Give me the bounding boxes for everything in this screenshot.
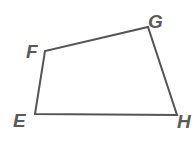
vertex-label-e: E: [13, 110, 27, 131]
quadrilateral-diagram: F G E H: [0, 0, 196, 142]
vertex-label-g: G: [148, 11, 163, 32]
quadrilateral-efgh: [35, 27, 177, 115]
vertex-label-f: F: [26, 41, 39, 62]
vertex-label-h: H: [177, 111, 192, 132]
